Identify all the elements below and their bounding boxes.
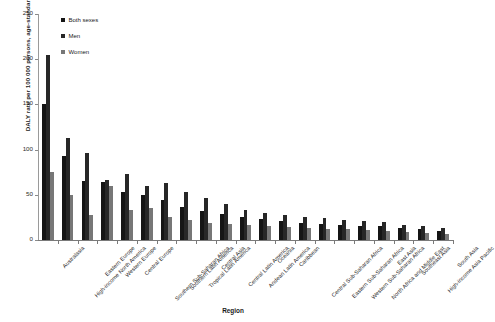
legend-item-men: Men [61,30,141,42]
legend-item-both-sexes: Both sexes [61,14,141,26]
legend-item-women: Women [61,46,141,58]
x-axis-category-label: High-income North America [93,245,146,298]
legend-label: Both sexes [69,17,99,23]
legend-swatch-icon [61,50,65,54]
legend-label: Women [69,49,90,55]
legend-label: Men [69,33,81,39]
legend-swatch-icon [61,34,65,38]
legend-swatch-icon [61,18,65,22]
chart-legend: Both sexes Men Women [61,14,141,62]
x-axis-title: Region [0,307,466,314]
x-axis-category-label: Australasia [61,245,85,269]
